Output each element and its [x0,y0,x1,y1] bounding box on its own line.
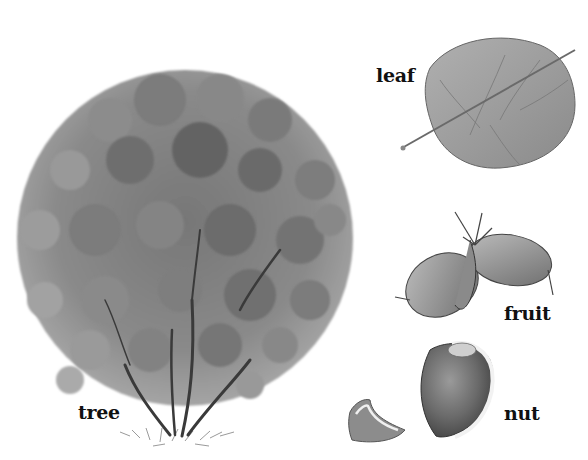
tree-drawing [17,70,353,446]
leaf-drawing [401,38,576,168]
grass-tuft [120,428,234,446]
illustration-canvas [0,0,588,460]
nut-drawing [349,343,493,442]
label-nut: nut [504,402,540,424]
hazel-illustration: leaf tree fruit nut [0,0,588,460]
label-tree: tree [78,401,120,423]
label-leaf: leaf [376,64,415,86]
label-fruit: fruit [504,302,551,324]
